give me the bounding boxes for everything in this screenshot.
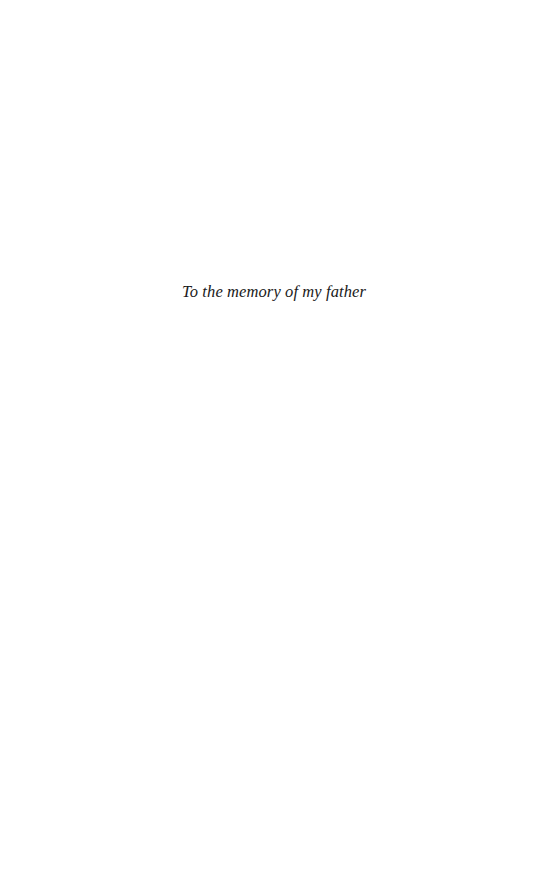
dedication-text: To the memory of my father (0, 282, 548, 302)
book-page: To the memory of my father (0, 0, 548, 876)
